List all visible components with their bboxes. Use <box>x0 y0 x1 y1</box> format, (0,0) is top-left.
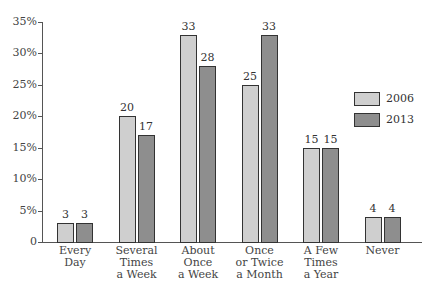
bar-value-label: 15 <box>319 134 343 146</box>
x-category-label: Once or Twice a Month <box>225 245 295 281</box>
y-tick-label: 0 <box>30 236 37 248</box>
y-tick-label: 15% <box>13 142 37 154</box>
bar-2013 <box>384 217 401 243</box>
y-tick-label: 25% <box>13 79 37 91</box>
x-category-label: Every Day <box>40 245 110 269</box>
bar-2006 <box>303 148 320 243</box>
bar-value-label: 17 <box>134 121 158 133</box>
bar-value-label: 25 <box>238 71 262 83</box>
y-tick-label: 35% <box>13 16 37 28</box>
y-tick-label: 30% <box>13 47 37 59</box>
bar-2013 <box>199 66 216 243</box>
legend-label-2006: 2006 <box>386 93 414 105</box>
bar-2006 <box>365 217 382 243</box>
x-category-label: A Few Times a Year <box>286 245 356 281</box>
y-tick <box>38 22 42 23</box>
legend-swatch-2013 <box>354 113 380 127</box>
bar-2006 <box>57 223 74 243</box>
bar-2013 <box>261 35 278 243</box>
x-category-label: About Once a Week <box>163 245 233 281</box>
y-tick <box>38 53 42 54</box>
y-tick <box>38 179 42 180</box>
y-tick-label: 20% <box>13 110 37 122</box>
bar-chart: 05%10%15%20%25%30%35% 332017332825331515… <box>0 0 429 291</box>
y-tick <box>38 242 42 243</box>
y-tick <box>38 116 42 117</box>
bar-value-label: 33 <box>177 21 201 33</box>
bar-2006 <box>180 35 197 243</box>
bar-2006 <box>119 116 136 243</box>
legend-swatch-2006 <box>354 92 380 106</box>
y-axis <box>42 22 43 242</box>
bar-2013 <box>322 148 339 243</box>
bar-value-label: 3 <box>73 209 97 221</box>
legend-label-2013: 2013 <box>386 114 414 126</box>
y-tick-label: 5% <box>20 205 37 217</box>
y-tick-label: 10% <box>13 173 37 185</box>
bar-value-label: 33 <box>257 21 281 33</box>
bar-2006 <box>242 85 259 243</box>
y-tick <box>38 148 42 149</box>
bar-value-label: 4 <box>380 203 404 215</box>
y-tick <box>38 85 42 86</box>
bar-2013 <box>138 135 155 243</box>
bar-value-label: 20 <box>115 102 139 114</box>
x-category-label: Never <box>348 245 418 257</box>
y-tick <box>38 211 42 212</box>
bar-value-label: 28 <box>196 52 220 64</box>
bar-2013 <box>76 223 93 243</box>
x-category-label: Several Times a Week <box>102 245 172 281</box>
